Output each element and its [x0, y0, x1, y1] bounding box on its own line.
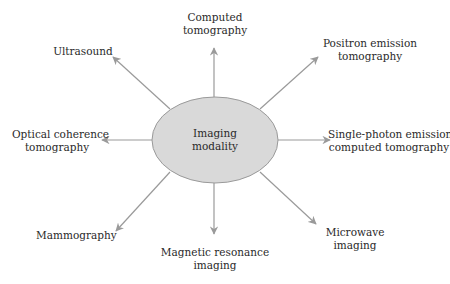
node-label-line: Ultrasound [52, 45, 114, 58]
node-label-line: imaging [160, 259, 270, 272]
node-spect: Single-photon emission computed tomograp… [328, 128, 450, 154]
node-label-line: computed tomography [328, 141, 450, 154]
center-label-line-2: modality [165, 140, 265, 153]
node-label-line: Magnetic resonance [160, 246, 270, 259]
node-microwave-imaging: Microwave imaging [315, 226, 395, 252]
node-magnetic-resonance-imaging: Magnetic resonance imaging [160, 246, 270, 272]
node-label-line: Mammography [36, 229, 116, 242]
node-label-line: imaging [315, 239, 395, 252]
node-label-line: Single-photon emission [328, 128, 450, 141]
node-label-line: Optical coherence [12, 128, 102, 141]
node-ultrasound: Ultrasound [52, 45, 114, 58]
node-label-line: tomography [12, 141, 102, 154]
node-mammography: Mammography [36, 229, 116, 242]
arrow-positron-emission-tomography [260, 57, 318, 109]
node-optical-coherence-tomography: Optical coherence tomography [12, 128, 102, 154]
arrow-microwave-imaging [260, 172, 316, 224]
node-label-line: Computed [174, 11, 256, 24]
node-label-line: Microwave [315, 226, 395, 239]
arrow-mammography [116, 172, 170, 231]
node-positron-emission-tomography: Positron emission tomography [310, 37, 430, 63]
node-label-line: Positron emission [310, 37, 430, 50]
center-node-label: Imaging modality [165, 127, 265, 153]
node-computed-tomography: Computed tomography [174, 11, 256, 37]
node-label-line: tomography [174, 24, 256, 37]
arrow-ultrasound [113, 57, 170, 109]
node-label-line: tomography [310, 50, 430, 63]
center-label-line-1: Imaging [165, 127, 265, 140]
